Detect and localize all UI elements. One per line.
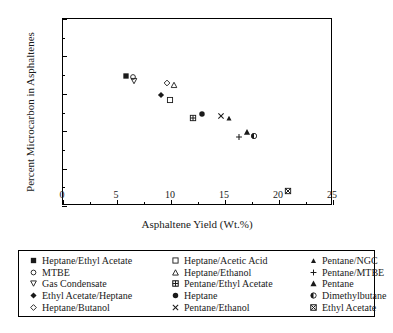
open-square-icon (169, 257, 182, 264)
half-filled-circle-icon (307, 292, 320, 299)
data-point (163, 79, 170, 86)
legend-item[interactable]: Heptane/Acetic Acid (169, 255, 299, 267)
open-circle-icon (27, 269, 40, 276)
legend-label: Pentane/NGC (320, 255, 378, 266)
x-tick-label: 25 (327, 190, 337, 200)
x-tick-minor (90, 202, 91, 205)
data-point (171, 81, 178, 88)
data-point (236, 134, 243, 141)
y-tick (62, 56, 67, 57)
y-axis-label: Percent Microcarbon in Asphaltenes (24, 17, 36, 207)
legend-item[interactable]: Pentane/Ethyl Acetate (169, 278, 299, 290)
data-point (166, 96, 173, 103)
small-filled-triangle-icon (307, 257, 320, 264)
legend-item[interactable]: Gas Condensate (27, 278, 161, 290)
legend-item[interactable]: MTBE (27, 267, 161, 279)
figure: Percent Microcarbon in Asphaltenes 05101… (0, 0, 393, 333)
data-point (199, 110, 206, 117)
legend-column: Heptane/Ethyl AcetateMTBEGas CondensateE… (19, 255, 161, 316)
x-axis-label: Asphaltene Yield (Wt.%) (62, 218, 332, 230)
x-tick (225, 200, 226, 205)
data-point (284, 188, 291, 195)
legend-item[interactable]: Ethyl Acetate (307, 301, 393, 313)
data-point (243, 128, 250, 135)
legend-label: Heptane (182, 290, 217, 301)
grid-square-icon (169, 280, 182, 287)
legend-label: Pentane/MTBE (320, 267, 384, 278)
plot-area: Percent Microcarbon in Asphaltenes 05101… (0, 0, 393, 240)
legend-label: Dimethylbutane (320, 290, 386, 301)
filled-circle-icon (169, 292, 182, 299)
filled-triangle-icon (307, 280, 320, 287)
filled-diamond-icon (27, 292, 40, 299)
open-diamond-icon (27, 304, 40, 311)
x-tick-label: 15 (219, 190, 229, 200)
open-up-triangle-icon (169, 269, 182, 276)
x-tick-minor (198, 202, 199, 205)
filled-square-icon (27, 257, 40, 264)
y-tick-minor (62, 113, 65, 114)
plot-frame (62, 18, 332, 205)
x-tick-label: 0 (60, 190, 65, 200)
x-tick-label: 5 (114, 190, 119, 200)
legend-item[interactable]: Pentane/MTBE (307, 267, 393, 279)
legend-label: Ethyl Acetate/Heptane (40, 290, 132, 301)
legend-label: MTBE (40, 267, 70, 278)
legend-label: Pentane (320, 278, 354, 289)
x-tick-minor (306, 202, 307, 205)
legend-item[interactable]: Heptane (169, 290, 299, 302)
legend: Heptane/Ethyl AcetateMTBEGas CondensateE… (18, 250, 375, 317)
data-point (158, 91, 165, 98)
legend-item[interactable]: Pentane/NGC (307, 255, 393, 267)
x-tick-label: 20 (273, 190, 283, 200)
y-tick (62, 206, 67, 207)
y-tick-minor (62, 38, 65, 39)
legend-label: Heptane/Ethyl Acetate (40, 255, 132, 266)
legend-item[interactable]: Pentane (307, 278, 393, 290)
x-tick (171, 200, 172, 205)
legend-label: Pentane/Ethanol (182, 302, 250, 313)
cross-x-icon (169, 304, 182, 311)
y-tick (62, 19, 67, 20)
y-tick-minor (62, 150, 65, 151)
legend-label: Heptane/Butanol (40, 302, 110, 313)
data-point (189, 115, 196, 122)
y-tick (62, 94, 67, 95)
x-tick (63, 200, 64, 205)
data-point (122, 72, 129, 79)
data-point (251, 133, 258, 140)
x-tick-minor (252, 202, 253, 205)
legend-item[interactable]: Pentane/Ethanol (169, 301, 299, 313)
legend-label: Heptane/Ethanol (182, 267, 251, 278)
x-tick (333, 200, 334, 205)
y-tick (62, 169, 67, 170)
legend-column: Heptane/Acetic AcidHeptane/EthanolPentan… (161, 255, 299, 316)
legend-item[interactable]: Heptane/Ethanol (169, 267, 299, 279)
data-point (226, 114, 233, 121)
x-tick-label: 10 (165, 190, 175, 200)
legend-column: Pentane/NGCPentane/MTBEPentaneDimethylbu… (299, 255, 393, 316)
data-point (131, 78, 138, 85)
legend-label: Gas Condensate (40, 278, 107, 289)
open-down-triangle-icon (27, 280, 40, 287)
x-tick-minor (144, 202, 145, 205)
plus-icon (307, 269, 320, 276)
x-tick (117, 200, 118, 205)
legend-item[interactable]: Heptane/Ethyl Acetate (27, 255, 161, 267)
data-point (217, 113, 224, 120)
y-tick (62, 131, 67, 132)
legend-item[interactable]: Dimethylbutane (307, 290, 393, 302)
legend-item[interactable]: Ethyl Acetate/Heptane (27, 290, 161, 302)
legend-label: Pentane/Ethyl Acetate (182, 278, 273, 289)
x-tick (279, 200, 280, 205)
y-tick-minor (62, 75, 65, 76)
legend-label: Heptane/Acetic Acid (182, 255, 268, 266)
legend-item[interactable]: Heptane/Butanol (27, 301, 161, 313)
boxed-x-icon (307, 304, 320, 311)
legend-label: Ethyl Acetate (320, 302, 376, 313)
